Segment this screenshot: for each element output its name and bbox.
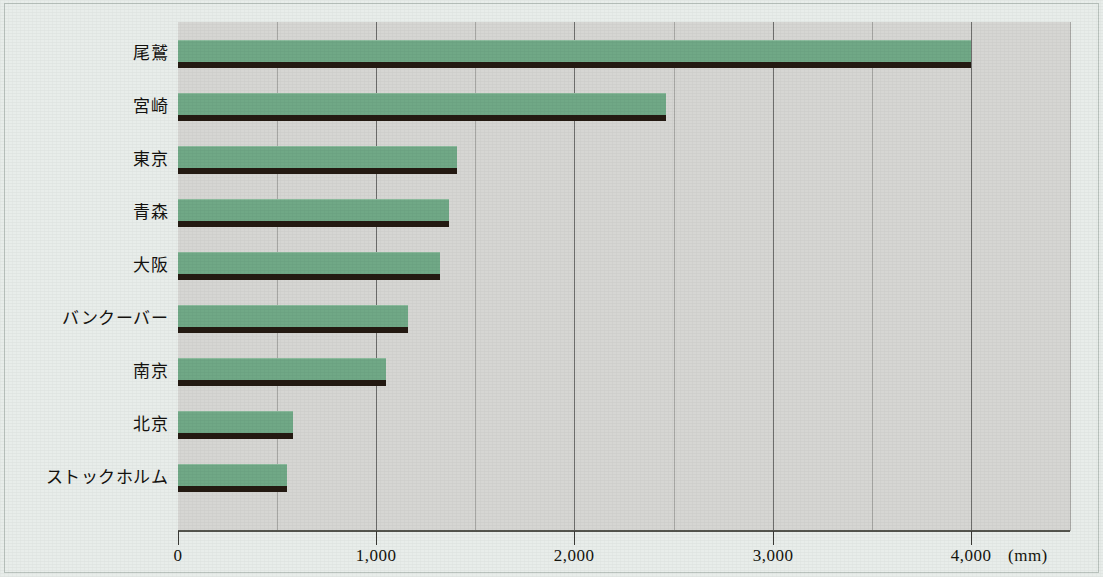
bar-fill bbox=[178, 40, 971, 62]
x-tick-mark-2000 bbox=[574, 531, 575, 545]
bar-shadow bbox=[178, 486, 287, 492]
bar-shadow bbox=[178, 274, 440, 280]
gridline-2500 bbox=[674, 22, 675, 531]
x-tick-label-0: 0 bbox=[118, 546, 238, 566]
x-tick-mark-0 bbox=[178, 531, 179, 545]
bar-fill bbox=[178, 358, 386, 380]
category-label-青森: 青森 bbox=[0, 198, 168, 223]
bar-尾鷲 bbox=[178, 40, 971, 68]
x-axis-unit-label: (mm) bbox=[1008, 546, 1048, 566]
bar-青森 bbox=[178, 199, 449, 227]
x-tick-label-1000: 1,000 bbox=[316, 546, 436, 566]
bar-fill bbox=[178, 93, 666, 115]
bar-fill bbox=[178, 199, 449, 221]
bar-shadow bbox=[178, 433, 293, 439]
bar-shadow bbox=[178, 380, 386, 386]
bar-shadow bbox=[178, 327, 408, 333]
x-axis-line bbox=[178, 530, 1070, 532]
gridline-4000 bbox=[971, 22, 972, 531]
bar-shadow bbox=[178, 221, 449, 227]
x-tick-label-2000: 2,000 bbox=[514, 546, 634, 566]
bar-chart-figure: 尾鷲宮崎東京青森大阪バンクーバー南京北京ストックホルム 01,0002,0003… bbox=[0, 0, 1103, 577]
bar-shadow bbox=[178, 115, 666, 121]
category-label-宮崎: 宮崎 bbox=[0, 92, 168, 117]
bar-東京 bbox=[178, 146, 457, 174]
gridline-3000 bbox=[773, 22, 774, 531]
category-label-大阪: 大阪 bbox=[0, 251, 168, 276]
gridline-3500 bbox=[872, 22, 873, 531]
category-label-南京: 南京 bbox=[0, 357, 168, 382]
x-tick-mark-4000 bbox=[971, 531, 972, 545]
bar-宮崎 bbox=[178, 93, 666, 121]
bar-shadow bbox=[178, 168, 457, 174]
bar-fill bbox=[178, 146, 457, 168]
bar-バンクーバー bbox=[178, 305, 408, 333]
category-label-東京: 東京 bbox=[0, 145, 168, 170]
bar-shadow bbox=[178, 62, 971, 68]
x-tick-mark-3000 bbox=[773, 531, 774, 545]
bar-北京 bbox=[178, 411, 293, 439]
bar-fill bbox=[178, 411, 293, 433]
bar-fill bbox=[178, 252, 440, 274]
x-tick-mark-1000 bbox=[376, 531, 377, 545]
category-label-尾鷲: 尾鷲 bbox=[0, 39, 168, 64]
category-label-北京: 北京 bbox=[0, 410, 168, 435]
category-label-ストックホルム: ストックホルム bbox=[0, 463, 168, 488]
bar-ストックホルム bbox=[178, 464, 287, 492]
category-label-バンクーバー: バンクーバー bbox=[0, 304, 168, 329]
bar-fill bbox=[178, 305, 408, 327]
plot-area bbox=[178, 22, 1070, 531]
bar-大阪 bbox=[178, 252, 440, 280]
bar-南京 bbox=[178, 358, 386, 386]
gridline-4500 bbox=[1070, 22, 1071, 531]
x-tick-label-3000: 3,000 bbox=[713, 546, 833, 566]
bar-fill bbox=[178, 464, 287, 486]
